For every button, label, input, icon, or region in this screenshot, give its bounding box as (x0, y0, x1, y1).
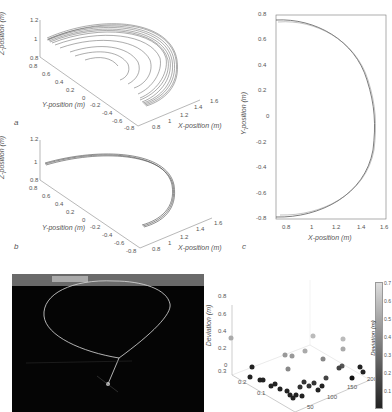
e-ytick: 0.2 (238, 379, 246, 385)
cbar-tick: 0.6 (384, 298, 391, 304)
b-ylabel: Y-position (m) (42, 224, 85, 231)
a-xtick: 0.8 (152, 124, 160, 130)
a-ytick: -0.2 (90, 102, 100, 108)
c-xtick: 1.2 (332, 224, 340, 230)
c-ytick: 0.6 (258, 36, 266, 42)
a-ytick: 0.2 (66, 87, 74, 93)
b-xtick: 1.4 (196, 226, 204, 232)
e-ztick: 0.6 (218, 311, 226, 317)
a-xlabel: X-position (m) (178, 122, 222, 129)
b-ytick: 0 (82, 217, 85, 223)
b-ytick: 0.2 (66, 209, 74, 215)
b-ytick: -0.6 (114, 240, 124, 246)
colorbar (375, 282, 383, 409)
panel-e-plot (210, 280, 392, 412)
a-zlabel: Z-position (m) (0, 12, 5, 55)
a-ztick: 1 (34, 36, 37, 42)
e-xtick: 150 (347, 384, 357, 390)
a-ytick: -0.6 (112, 118, 122, 124)
panel-d-photo (12, 274, 204, 412)
a-xtick: 1.2 (180, 112, 188, 118)
cbar-tick: 0.2 (384, 370, 391, 376)
c-ytick: 0.2 (258, 87, 266, 93)
e-ytick: 0.3 (218, 368, 226, 374)
b-xtick: 1 (168, 240, 171, 246)
a-ytick: -0.4 (102, 110, 112, 116)
a-xtick: 1.4 (194, 104, 202, 110)
e-ztick: 0.8 (218, 293, 226, 299)
cbar-tick: 0.7 (384, 280, 391, 286)
a-ztick: 1.2 (30, 17, 38, 23)
c-xtick: 0.8 (282, 224, 290, 230)
c-ytick: -0.4 (256, 164, 266, 170)
c-ytick: -0.6 (256, 190, 266, 196)
panel-a-label: a (14, 118, 18, 127)
cbar-tick: 0.1 (384, 388, 391, 394)
a-ylabel: Y-position (m) (42, 101, 85, 108)
e-ytick: 0.1 (257, 390, 265, 396)
cbar-tick: 0.5 (384, 316, 391, 322)
e-ztick: 0.4 (218, 328, 226, 334)
e-xtick: 100 (327, 394, 337, 400)
b-ytick: -0.4 (102, 232, 112, 238)
b-ztick: 1.2 (30, 136, 38, 142)
b-xlabel: X-position (m) (178, 244, 222, 251)
a-ytick: 0.4 (55, 79, 63, 85)
panel-c: 0.8 0.6 0.4 0.2 0 -0.2 -0.4 -0.6 -0.8 Y-… (240, 0, 392, 270)
b-xtick: 1.6 (214, 220, 222, 226)
c-xtick: 1 (310, 224, 313, 230)
c-ylabel: Y-position (m) (240, 92, 247, 135)
c-ytick: 0.4 (258, 62, 266, 68)
a-ztick: 0.8 (30, 55, 38, 61)
cbar-tick: 0.3 (384, 352, 391, 358)
panel-e: 0.8 0.6 0.4 0.2 0 Deviation (m) 0.3 0.2 … (210, 280, 392, 412)
b-xtick: 0.8 (152, 246, 160, 252)
a-ytick: 0.6 (42, 71, 50, 77)
cbar-tick: 0.4 (384, 334, 391, 340)
c-ytick: 0 (266, 113, 269, 119)
b-ytick: 0.8 (29, 185, 37, 191)
c-xtick: 1.4 (357, 224, 365, 230)
c-xtick: 1.6 (380, 224, 388, 230)
panel-c-label: c (242, 242, 246, 251)
c-ytick: -0.8 (256, 215, 266, 221)
b-xtick: 1.2 (180, 234, 188, 240)
b-ztick: 0.8 (30, 177, 38, 183)
e-xtick: 50 (307, 404, 314, 410)
photo-scene (12, 274, 204, 412)
b-ytick: 0.6 (42, 193, 50, 199)
b-ytick: -0.8 (126, 248, 136, 254)
colorbar-label: Deviation (m) (370, 320, 376, 356)
panel-b: 1.2 1 0.8 Z-position (m) 0.8 0.6 0.4 0.2… (0, 140, 230, 270)
b-ztick: 1 (34, 159, 37, 165)
a-ytick: 0.8 (29, 63, 37, 69)
c-xlabel: X-position (m) (308, 234, 352, 241)
c-ytick: 0.8 (258, 11, 266, 17)
c-ytick: -0.2 (256, 139, 266, 145)
b-zlabel: Z-position (m) (0, 136, 5, 179)
a-xtick: 1 (168, 118, 171, 124)
a-xtick: 1.6 (210, 98, 218, 104)
e-zlabel: Deviation (m) (205, 305, 212, 347)
a-ytick: -0.8 (124, 125, 134, 131)
e-ztick: 0.2 (218, 345, 226, 351)
panel-a: 1.2 1 0.8 Z-position (m) 0.8 0.6 0.4 0.2… (0, 0, 230, 140)
b-ytick: 0.4 (55, 201, 63, 207)
panel-b-label: b (14, 242, 18, 251)
b-ytick: -0.2 (90, 224, 100, 230)
